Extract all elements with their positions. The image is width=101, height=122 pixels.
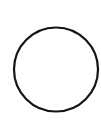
canvas (0, 0, 101, 122)
circle-outline-icon (14, 28, 98, 112)
